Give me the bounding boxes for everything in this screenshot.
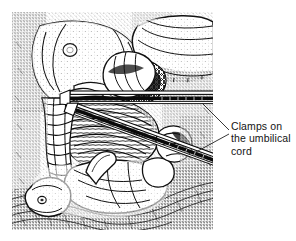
upper-clamp bbox=[60, 90, 213, 105]
medical-illustration bbox=[12, 12, 213, 230]
figure-page: Clamps on the umbilical cord bbox=[0, 0, 296, 241]
illustration-canvas bbox=[12, 12, 213, 230]
clamps-annotation-label: Clamps on the umbilical cord bbox=[231, 120, 295, 157]
